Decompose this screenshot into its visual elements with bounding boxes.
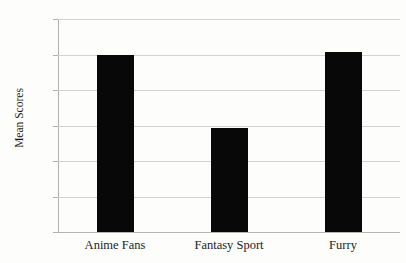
chart-title-cropped (0, 0, 406, 7)
bar-chart: Mean Scores 43.532.521.51 Anime FansFant… (0, 0, 406, 263)
bar (97, 55, 134, 233)
y-axis-tick (53, 19, 58, 20)
y-axis-tick (53, 232, 58, 233)
plot-area (58, 19, 400, 232)
bar (325, 52, 362, 232)
x-axis-category-label: Fantasy Sport (169, 238, 289, 253)
y-axis-tick (53, 197, 58, 198)
gridline (58, 19, 400, 20)
x-axis-category-label: Furry (283, 238, 403, 253)
y-axis-title: Mean Scores (13, 58, 25, 178)
bar (211, 128, 248, 232)
x-axis-category-label: Anime Fans (55, 238, 175, 253)
y-axis-tick (53, 90, 58, 91)
gridline (58, 232, 400, 233)
y-axis-tick (53, 55, 58, 56)
y-axis-tick (53, 126, 58, 127)
y-axis-tick (53, 161, 58, 162)
